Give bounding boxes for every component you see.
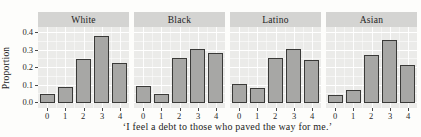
bar-asian-0 <box>328 95 343 103</box>
facet-strip-label: White <box>71 15 96 25</box>
bar-black-2 <box>172 58 187 103</box>
bar-white-0 <box>40 94 55 103</box>
gridline-vertical-minor <box>170 27 171 108</box>
gridline-vertical-minor <box>74 27 75 108</box>
facet-strip-label: Asian <box>360 15 384 25</box>
y-tick-label: 0.0 <box>14 97 33 107</box>
gridline-vertical-minor <box>248 27 249 108</box>
x-tick-label: 4 <box>111 111 129 121</box>
x-tick-label: 4 <box>399 111 417 121</box>
facet-panel-latino: Latino01234 <box>230 12 321 120</box>
bar-latino-2 <box>268 58 283 103</box>
gridline-vertical-minor <box>152 27 153 108</box>
plot-area-latino <box>230 27 321 108</box>
facet-panel-white: White01234 <box>38 12 129 120</box>
facet-strip-asian: Asian <box>326 12 417 27</box>
gridline-vertical-minor <box>344 27 345 108</box>
facet-strip-latino: Latino <box>230 12 321 27</box>
x-tick-label: 0 <box>38 111 56 121</box>
gridline-vertical-minor <box>266 27 267 108</box>
bar-asian-2 <box>364 55 379 103</box>
bar-latino-3 <box>286 49 301 103</box>
x-tick-label: 4 <box>303 111 321 121</box>
y-axis-title-text: Proportion <box>1 47 11 90</box>
facet-strip-label: Black <box>168 15 192 25</box>
bar-white-2 <box>76 59 91 103</box>
gridline-vertical-minor <box>56 27 57 108</box>
x-tick-label: 3 <box>285 111 303 121</box>
x-tick-label: 2 <box>74 111 92 121</box>
x-tick-label: 0 <box>230 111 248 121</box>
bar-latino-0 <box>232 84 247 103</box>
facet-panel-asian: Asian01234 <box>326 12 417 120</box>
x-tick-label: 1 <box>344 111 362 121</box>
bar-white-4 <box>112 63 127 103</box>
x-tick-label: 3 <box>189 111 207 121</box>
x-tick-label: 2 <box>170 111 188 121</box>
bar-asian-1 <box>346 90 361 103</box>
bar-asian-4 <box>400 65 415 103</box>
y-tick-label: 0.4 <box>14 27 33 37</box>
facet-strip-black: Black <box>134 12 225 27</box>
bar-latino-1 <box>250 88 265 103</box>
faceted-bar-chart: Proportion 0.40.30.20.10.0 White01234Bla… <box>0 0 421 137</box>
facet-strip-label: Latino <box>262 15 289 25</box>
bar-black-1 <box>154 94 169 103</box>
x-tick-label: 2 <box>362 111 380 121</box>
y-tick-label: 0.2 <box>14 62 33 72</box>
x-tick-label: 4 <box>207 111 225 121</box>
x-tick-label: 1 <box>56 111 74 121</box>
bar-black-0 <box>136 86 151 103</box>
y-tick-label: 0.3 <box>14 45 33 55</box>
plot-area-black <box>134 27 225 108</box>
x-tick-label: 1 <box>248 111 266 121</box>
y-tick-label: 0.1 <box>14 80 33 90</box>
bar-white-3 <box>94 36 109 103</box>
x-tick-label: 0 <box>326 111 344 121</box>
bar-latino-4 <box>304 60 319 103</box>
x-tick-label: 3 <box>381 111 399 121</box>
plot-area-white <box>38 27 129 108</box>
x-tick-label: 3 <box>93 111 111 121</box>
facet-strip-white: White <box>38 12 129 27</box>
facet-panel-black: Black01234 <box>134 12 225 120</box>
bar-black-4 <box>208 53 223 103</box>
x-tick-label: 1 <box>152 111 170 121</box>
x-axis-title: ‘I feel a debt to those who paved the wa… <box>38 121 417 132</box>
x-tick-label: 0 <box>134 111 152 121</box>
y-axis-title: Proportion <box>0 28 13 108</box>
plot-area-asian <box>326 27 417 108</box>
bar-black-3 <box>190 49 205 103</box>
x-tick-label: 2 <box>266 111 284 121</box>
bar-asian-3 <box>382 40 397 103</box>
gridline-vertical-minor <box>362 27 363 108</box>
bar-white-1 <box>58 87 73 103</box>
